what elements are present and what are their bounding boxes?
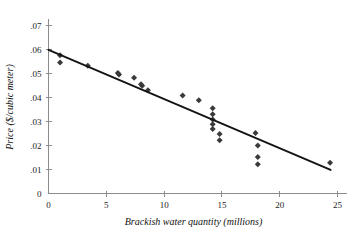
- data-point: [327, 160, 333, 166]
- x-tick-label: 5: [104, 200, 109, 210]
- y-tick-label: 0: [37, 189, 42, 199]
- x-tick-label: 20: [275, 200, 285, 210]
- x-axis-title: Brackish water quantity (millions): [125, 216, 263, 228]
- x-tick-label: 0: [46, 200, 51, 210]
- y-tick-label: .04: [30, 93, 42, 103]
- trend-line: [49, 50, 331, 170]
- data-point: [180, 92, 186, 98]
- x-tick-label: 10: [160, 200, 170, 210]
- data-point: [210, 126, 216, 132]
- data-point: [255, 161, 261, 167]
- scatter-chart: 0510152025 0.01.02.03.04.05.06.07 Bracki…: [0, 0, 361, 240]
- y-tick-label: .07: [30, 21, 42, 31]
- data-point: [210, 111, 216, 117]
- data-point: [217, 131, 223, 137]
- data-point: [255, 154, 261, 160]
- x-tick-label: 15: [217, 200, 227, 210]
- data-point: [131, 75, 137, 81]
- y-tick-label: .06: [30, 45, 42, 55]
- data-point: [196, 97, 202, 103]
- data-point: [255, 142, 261, 148]
- data-point: [217, 137, 223, 143]
- y-axis-title: Price ($/cubic meter): [4, 64, 16, 151]
- y-tick-label: .05: [30, 69, 42, 79]
- y-tick-label: .01: [30, 165, 41, 175]
- axes-group: [49, 19, 347, 194]
- data-point: [252, 130, 258, 136]
- data-point: [210, 105, 216, 111]
- trend-line-group: [49, 50, 331, 170]
- data-point: [57, 60, 63, 66]
- data-points-group: [57, 52, 333, 167]
- y-tick-label: .02: [30, 141, 41, 151]
- y-tick-label: .03: [30, 117, 42, 127]
- x-tick-label: 25: [333, 200, 343, 210]
- plot-area: 0510152025 0.01.02.03.04.05.06.07 Bracki…: [0, 0, 361, 240]
